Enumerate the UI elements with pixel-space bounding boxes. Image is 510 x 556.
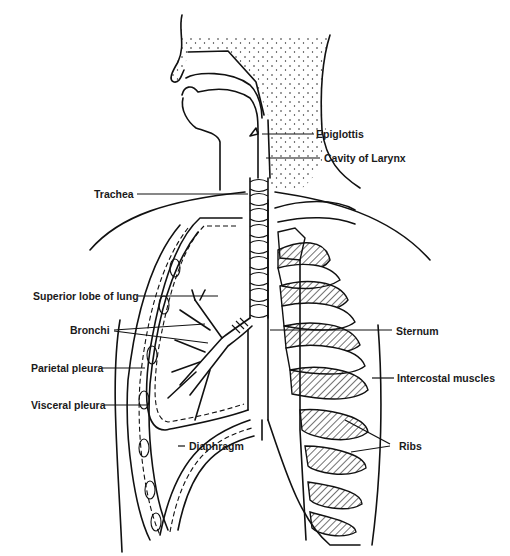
- label-cavity-of-larynx: Cavity of Larynx: [324, 152, 406, 164]
- trachea: [250, 178, 268, 440]
- label-bronchi: Bronchi: [70, 324, 110, 336]
- label-trachea: Trachea: [94, 188, 134, 200]
- bronchi: [168, 290, 252, 420]
- label-epiglottis: Epiglottis: [316, 128, 364, 140]
- left-lung: [127, 218, 254, 540]
- respiratory-diagram: Epiglottis Cavity of Larynx Trachea Supe…: [0, 0, 510, 556]
- label-parietal-pleura: Parietal pleura: [31, 362, 103, 374]
- anatomy-illustration: [0, 0, 510, 556]
- label-intercostal-muscles: Intercostal muscles: [397, 372, 495, 384]
- rib-cage: [268, 202, 381, 546]
- label-diaphragm: Diaphragm: [189, 440, 244, 452]
- label-visceral-pleura: Visceral pleura: [31, 399, 106, 411]
- label-superior-lobe-of-lung: Superior lobe of lung: [33, 290, 139, 302]
- label-sternum: Sternum: [396, 325, 439, 337]
- label-ribs: Ribs: [399, 440, 422, 452]
